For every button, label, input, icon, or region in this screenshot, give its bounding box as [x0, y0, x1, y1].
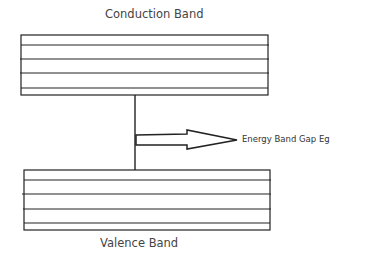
- band-diagram: [0, 0, 366, 263]
- valence-band-box: [24, 170, 270, 230]
- valence-band: [22, 170, 271, 230]
- energy-gap-label: Energy Band Gap Eg: [242, 134, 330, 144]
- valence-band-label: Valence Band: [100, 236, 178, 250]
- conduction-band: [20, 35, 269, 95]
- energy-gap-arrow-icon: [136, 130, 237, 149]
- conduction-band-box: [21, 35, 268, 95]
